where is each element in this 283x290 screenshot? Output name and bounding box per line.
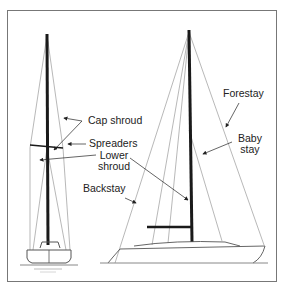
label-lower-shroud: Lower shroud	[96, 150, 132, 172]
label-lower-shroud-line2: shroud	[96, 161, 132, 172]
rigging-diagram: Cap shroud Spreaders Lower shroud Backst…	[0, 0, 283, 290]
hull-side	[108, 249, 120, 263]
mast-front	[47, 34, 48, 245]
label-backstay: Backstay	[83, 183, 126, 194]
label-cap-shroud: Cap shroud	[88, 115, 142, 126]
front-view-sailboat	[20, 34, 78, 272]
label-baby-stay: Baby stay	[236, 133, 264, 155]
baby-stay-line	[189, 130, 222, 241]
label-spreaders: Spreaders	[89, 138, 137, 149]
label-forestay: Forestay	[223, 88, 264, 99]
label-baby-stay-line2: stay	[236, 144, 264, 155]
mast-side	[189, 30, 192, 242]
